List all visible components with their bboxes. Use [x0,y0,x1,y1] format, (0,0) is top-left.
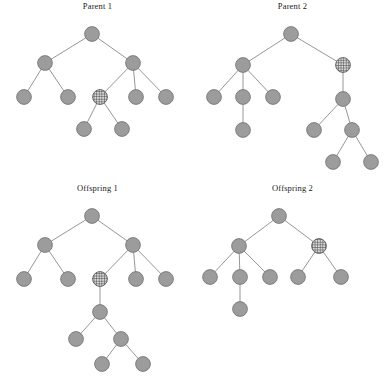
tree-node[interactable] [232,239,247,254]
panel-parent-1: Parent 1 [0,0,195,191]
tree-node[interactable] [345,123,360,138]
tree-node[interactable] [129,272,144,287]
tree-node[interactable] [85,27,100,42]
tree-node[interactable] [336,92,351,107]
tree-node[interactable] [126,56,141,71]
tree-nodes [203,209,349,317]
tree-node[interactable] [61,272,76,287]
tree-node[interactable] [38,238,53,253]
tree-node[interactable] [85,209,100,224]
tree-node[interactable] [38,56,53,71]
tree-nodes [207,27,379,170]
panel-offspring-1: Offspring 1 [0,182,195,373]
tree-node[interactable] [233,302,248,317]
tree-edge [243,34,291,65]
tree-node[interactable] [115,122,130,137]
tree-edges [210,216,341,309]
tree-node[interactable] [263,270,278,285]
tree-diagram-parent-2 [195,0,390,191]
tree-node[interactable] [334,270,349,285]
tree-node[interactable] [159,272,174,287]
tree-node[interactable] [236,58,251,73]
tree-node[interactable] [284,27,299,42]
tree-node-crossover-point[interactable] [336,58,351,73]
tree-node-crossover-point[interactable] [93,90,108,105]
tree-edge [291,34,343,65]
tree-node[interactable] [17,90,32,105]
tree-node[interactable] [207,90,222,105]
tree-edge [45,34,92,63]
tree-nodes [17,27,174,137]
tree-edges [24,34,166,129]
tree-node[interactable] [307,123,322,138]
tree-node[interactable] [77,122,92,137]
tree-node[interactable] [129,90,144,105]
tree-node[interactable] [126,238,141,253]
tree-edge [45,216,92,245]
tree-node[interactable] [114,332,129,347]
tree-node-crossover-point[interactable] [93,272,108,287]
tree-node[interactable] [136,357,151,372]
tree-node[interactable] [233,270,248,285]
tree-node[interactable] [236,90,251,105]
tree-node[interactable] [266,90,281,105]
panel-offspring-2: Offspring 2 [195,182,390,373]
tree-node[interactable] [272,209,287,224]
panel-parent-2: Parent 2 [195,0,390,191]
tree-node[interactable] [159,90,174,105]
tree-node[interactable] [203,270,218,285]
tree-diagram-offspring-1 [0,182,195,373]
tree-node[interactable] [69,332,84,347]
tree-node-crossover-point[interactable] [312,239,327,254]
tree-node[interactable] [93,305,108,320]
tree-diagram-offspring-2 [195,182,390,373]
tree-node[interactable] [95,357,110,372]
tree-node[interactable] [61,90,76,105]
tree-node[interactable] [326,155,341,170]
tree-nodes [17,209,174,372]
tree-node[interactable] [364,155,379,170]
tree-node[interactable] [291,270,306,285]
tree-diagram-parent-1 [0,0,195,191]
tree-node[interactable] [17,272,32,287]
tree-node[interactable] [236,123,251,138]
